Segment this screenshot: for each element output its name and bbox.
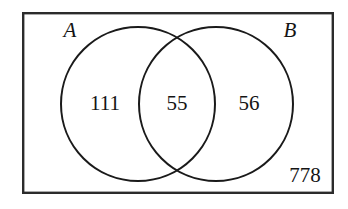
venn-diagram-figure: A B 111 55 56 778 [0,0,348,209]
set-b-label: B [284,18,297,42]
venn-diagram-canvas: A B 111 55 56 778 [0,0,348,209]
region-count-b-only: 56 [239,91,260,115]
region-count-outside: 778 [289,163,321,187]
region-count-intersection: 55 [167,91,188,115]
region-count-a-only: 111 [90,91,120,115]
set-a-label: A [62,18,77,42]
